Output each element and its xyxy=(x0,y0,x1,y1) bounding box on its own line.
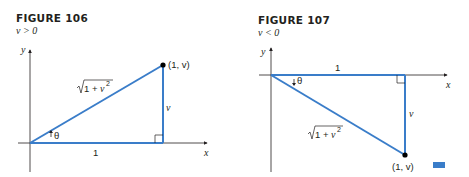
diagram-canvas: y x (1, v) v 1 θ 1 + v 2 y x (1, v) v xyxy=(0,0,469,177)
svg-text:1 +: 1 + xyxy=(84,83,98,94)
point-label: (1, v) xyxy=(392,161,414,172)
horizontal-side-label: 1 xyxy=(93,147,98,158)
point-label: (1, v) xyxy=(168,59,190,70)
right-angle-mark xyxy=(155,135,163,143)
svg-text:v: v xyxy=(331,129,336,140)
right-angle-mark xyxy=(397,75,405,83)
svg-text:v: v xyxy=(100,83,105,94)
hypotenuse xyxy=(271,75,405,155)
horizontal-side-label: 1 xyxy=(335,62,340,73)
svg-text:1 +: 1 + xyxy=(315,129,329,140)
figure-106-diagram: y x (1, v) v 1 θ 1 + v 2 xyxy=(18,44,209,172)
angle-label: θ xyxy=(54,130,59,141)
figure-107-diagram: y x (1, v) v 1 θ 1 + v 2 xyxy=(259,46,451,172)
svg-text:2: 2 xyxy=(337,126,341,133)
x-axis-label: x xyxy=(203,147,209,158)
vertical-side-label: v xyxy=(166,102,171,113)
hypotenuse xyxy=(30,65,163,143)
angle-label: θ xyxy=(297,75,302,86)
y-axis-label: y xyxy=(260,46,266,57)
hypotenuse-label: 1 + v 2 xyxy=(77,80,113,94)
angle-arc-icon xyxy=(292,83,296,86)
y-axis-label: y xyxy=(20,44,26,55)
hypotenuse-label: 1 + v 2 xyxy=(308,126,343,140)
point-marker xyxy=(402,152,407,157)
x-axis-label: x xyxy=(445,79,451,90)
svg-text:2: 2 xyxy=(106,80,110,87)
point-marker xyxy=(160,62,165,67)
vertical-side-label: v xyxy=(409,108,414,119)
end-of-section-mark xyxy=(433,162,445,168)
